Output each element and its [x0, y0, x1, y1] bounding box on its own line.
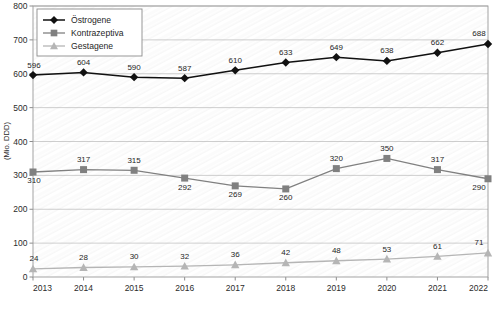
y-axis-tick-label: 300 [13, 170, 27, 180]
line-chart: 0100200300400500600700800 20132014201520… [0, 0, 496, 310]
x-axis-tick-label: 2016 [175, 283, 194, 293]
data-point-label: 320 [330, 154, 344, 163]
data-point-marker-square [80, 166, 87, 173]
x-axis-tick-label: 2015 [125, 283, 144, 293]
x-axis-tick-label: 2013 [33, 283, 52, 293]
data-point-label: 317 [77, 155, 91, 164]
x-axis-tick-label: 2019 [327, 283, 346, 293]
data-point-label: 61 [433, 242, 442, 251]
data-point-label: 587 [178, 64, 192, 73]
data-point-label: 71 [475, 238, 484, 247]
data-point-label: 48 [332, 246, 341, 255]
x-axis-tick-label: 2014 [74, 283, 93, 293]
data-point-label: 260 [279, 193, 293, 202]
y-axis-tick-label: 100 [13, 238, 27, 248]
data-point-label: 662 [431, 38, 445, 47]
data-point-marker-square [383, 155, 390, 162]
x-axis-tick-label: 2022 [469, 283, 488, 293]
x-axis-tick-label: 2017 [226, 283, 245, 293]
x-axis-tick-label: 2018 [276, 283, 295, 293]
data-point-label: 28 [79, 253, 88, 262]
y-axis-tick-label: 200 [13, 204, 27, 214]
data-point-label: 42 [281, 248, 290, 257]
data-point-label: 30 [130, 252, 139, 261]
data-point-label: 32 [180, 252, 189, 261]
data-point-label: 310 [27, 176, 41, 185]
data-point-marker-square [282, 185, 289, 192]
y-axis-tick-label: 500 [13, 103, 27, 113]
data-point-label: 292 [178, 183, 192, 192]
chart-legend[interactable]: ÖstrogeneKontrazeptivaGestagene [37, 9, 142, 56]
y-axis-tick-label: 0 [23, 272, 28, 282]
y-axis-tick-label: 400 [13, 137, 27, 147]
data-point-marker-square [232, 182, 239, 189]
data-point-label: 53 [382, 245, 391, 254]
y-axis-tick-label: 600 [13, 69, 27, 79]
data-point-marker-square [333, 165, 340, 172]
data-point-label: 24 [30, 254, 39, 263]
legend-label: Östrogene [71, 15, 111, 25]
data-point-marker-square [181, 175, 188, 182]
data-point-marker-square [51, 30, 58, 37]
data-point-marker-square [485, 175, 492, 182]
data-point-label: 590 [127, 63, 141, 72]
data-point-label: 688 [472, 29, 486, 38]
data-point-label: 633 [279, 48, 293, 57]
data-point-label: 36 [231, 250, 240, 259]
chart-container: 0100200300400500600700800 20132014201520… [0, 0, 496, 310]
x-axis-tick-label: 2021 [428, 283, 447, 293]
data-point-label: 596 [27, 61, 41, 70]
data-point-label: 317 [431, 155, 445, 164]
data-point-label: 638 [380, 46, 394, 55]
data-point-label: 610 [229, 56, 243, 65]
data-point-marker-square [30, 168, 37, 175]
data-point-label: 290 [472, 183, 486, 192]
data-point-label: 649 [330, 43, 344, 52]
legend-label: Gestagene [71, 41, 113, 51]
data-point-label: 315 [127, 156, 141, 165]
legend-label: Kontrazeptiva [71, 28, 124, 38]
data-point-marker-square [131, 167, 138, 174]
x-axis-tick-label: 2020 [377, 283, 396, 293]
y-axis-tick-label: 800 [13, 1, 27, 11]
data-point-label: 604 [77, 58, 91, 67]
data-point-marker-square [434, 166, 441, 173]
data-point-label: 269 [229, 190, 243, 199]
data-point-label: 350 [380, 144, 394, 153]
y-axis-tick-label: 700 [13, 35, 27, 45]
y-axis-title: (Mio. DDD) [2, 122, 11, 160]
